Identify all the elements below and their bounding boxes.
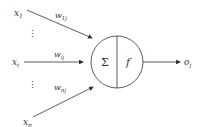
weight-w1j: w1j xyxy=(55,11,67,22)
svg-text:wij: wij xyxy=(54,50,65,61)
svg-text:x1: x1 xyxy=(14,8,23,19)
neuron-node: Σ f xyxy=(91,36,143,88)
activation-symbol: f xyxy=(125,56,132,69)
sum-symbol: Σ xyxy=(101,56,109,69)
ellipsis-top: ⋮ xyxy=(28,29,37,39)
svg-text:wnj: wnj xyxy=(54,83,66,94)
neuron-diagram: x1 w1j ⋮ xi wij ⋮ xn wnj Σ f oj xyxy=(0,0,202,127)
weight-wij: wij xyxy=(54,50,65,61)
input-x1: x1 xyxy=(14,8,23,19)
svg-text:xi: xi xyxy=(12,57,19,68)
svg-text:w1j: w1j xyxy=(55,11,67,22)
svg-text:xn: xn xyxy=(23,117,32,127)
weight-wnj: wnj xyxy=(54,83,66,94)
output-oj: oj xyxy=(184,57,191,69)
input-xi: xi xyxy=(12,57,19,68)
input-xn: xn xyxy=(23,117,32,127)
svg-text:oj: oj xyxy=(184,57,191,69)
ellipsis-bottom: ⋮ xyxy=(28,80,37,90)
